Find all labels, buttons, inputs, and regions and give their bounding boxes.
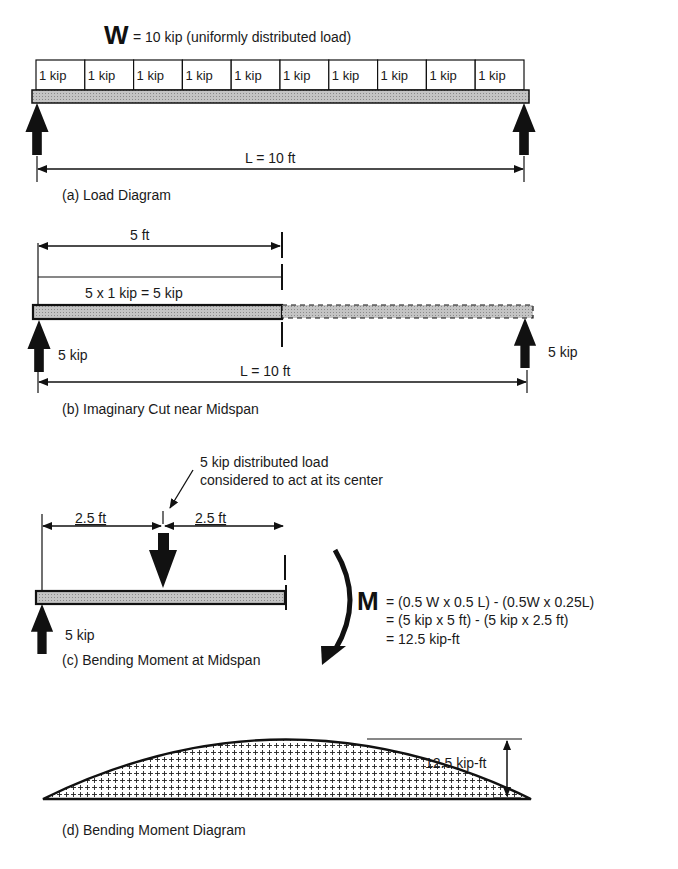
right-reaction-label: 5 kip bbox=[548, 344, 578, 360]
load-segment-label: 1 kip bbox=[478, 68, 505, 83]
note-line-2: considered to act at its center bbox=[200, 472, 383, 488]
load-segment-label: 1 kip bbox=[88, 68, 115, 83]
equation-line-2: = (5 kip x 5 ft) - (5 kip x 2.5 ft) bbox=[386, 612, 568, 628]
load-segment-label: 1 kip bbox=[234, 68, 261, 83]
moment-arrowhead-icon bbox=[321, 646, 346, 665]
free-body-beam bbox=[36, 591, 285, 604]
resultant-load-arrow-icon bbox=[149, 533, 177, 588]
load-description: = 10 kip (uniformly distributed load) bbox=[133, 29, 351, 45]
load-segment-label: 1 kip bbox=[381, 68, 408, 83]
left-reaction-label: 5 kip bbox=[58, 347, 88, 363]
half-span-label: 5 ft bbox=[130, 227, 150, 243]
load-segment-label: 1 kip bbox=[185, 68, 212, 83]
note-line-1: 5 kip distributed load bbox=[200, 454, 328, 470]
right-beam-segment-dashed bbox=[282, 305, 533, 318]
beam bbox=[32, 90, 529, 103]
dim-right-label: 2.5 ft bbox=[195, 510, 226, 526]
panel-a-load-diagram: W = 10 kip (uniformly distributed load) … bbox=[25, 20, 535, 203]
panel-c-bending-moment: 5 kip distributed load considered to act… bbox=[31, 454, 594, 668]
span-label: L = 10 ft bbox=[245, 150, 296, 166]
caption-a: (a) Load Diagram bbox=[62, 187, 171, 203]
load-segments: 1 kip1 kip1 kip1 kip1 kip1 kip1 kip1 kip… bbox=[36, 60, 524, 90]
caption-d: (d) Bending Moment Diagram bbox=[62, 822, 246, 838]
load-segment-label: 1 kip bbox=[137, 68, 164, 83]
beam-diagram: W = 10 kip (uniformly distributed load) … bbox=[0, 0, 678, 869]
load-symbol-w: W bbox=[104, 20, 129, 50]
panel-d-moment-diagram: 12.5 kip-ft (d) Bending Moment Diagram bbox=[43, 739, 531, 838]
left-support-arrow-icon bbox=[25, 103, 48, 155]
reaction-label: 5 kip bbox=[65, 627, 95, 643]
reaction-arrow-icon bbox=[31, 604, 53, 654]
load-segment-label: 1 kip bbox=[283, 68, 310, 83]
span-label-b: L = 10 ft bbox=[240, 363, 291, 379]
load-segment-label: 1 kip bbox=[332, 68, 359, 83]
right-reaction-arrow-icon bbox=[514, 318, 536, 368]
load-sum-label: 5 x 1 kip = 5 kip bbox=[85, 285, 183, 301]
equation-line-1: = (0.5 W x 0.5 L) - (0.5W x 0.25L) bbox=[386, 594, 594, 610]
panel-b-imaginary-cut: 5 ft 5 x 1 kip = 5 kip 5 kip 5 kip L = 1… bbox=[27, 227, 577, 417]
caption-b: (b) Imaginary Cut near Midspan bbox=[62, 401, 259, 417]
right-support-arrow-icon bbox=[512, 103, 535, 155]
load-segment-label: 1 kip bbox=[429, 68, 456, 83]
caption-c: (c) Bending Moment at Midspan bbox=[62, 652, 260, 668]
left-reaction-arrow-icon bbox=[27, 320, 50, 372]
moment-symbol: M bbox=[357, 586, 379, 616]
equation-line-3: = 12.5 kip-ft bbox=[386, 631, 460, 647]
load-segment-label: 1 kip bbox=[39, 68, 66, 83]
max-moment-label: 12.5 kip-ft bbox=[425, 755, 487, 771]
moment-curve bbox=[335, 550, 350, 650]
leader-arrow-icon bbox=[170, 470, 193, 508]
left-beam-segment bbox=[33, 305, 282, 319]
dim-left-label: 2.5 ft bbox=[75, 510, 106, 526]
